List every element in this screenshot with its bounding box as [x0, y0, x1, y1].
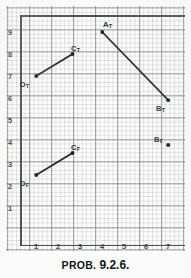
y-axis-tick-1: 1 [2, 205, 12, 212]
plot-frame-right-edge [185, 15, 186, 246]
x-axis-tick-1: 1 [31, 243, 41, 250]
y-axis-tick-6: 6 [2, 95, 12, 102]
y-axis-tick-3: 3 [2, 161, 12, 168]
point-label-ct-subscript: T [77, 47, 80, 53]
point-label-ct: CT [71, 45, 80, 53]
point-label-bt-subscript: T [162, 107, 165, 113]
y-axis-tick-9: 9 [2, 29, 12, 36]
point-label-cf-subscript: F [77, 146, 80, 152]
point-label-dt-letter: D [20, 80, 25, 89]
graph-paper-sheet [6, 6, 185, 251]
x-axis-tick-4: 4 [97, 243, 107, 250]
point-label-bf: BF [154, 136, 163, 144]
x-axis-tick-7: 7 [163, 243, 173, 250]
point-label-bf-letter: B [154, 135, 159, 144]
point-label-at: AT [103, 21, 112, 29]
point-label-df-letter: D [20, 179, 25, 188]
point-label-cf: CF [71, 144, 80, 152]
caption-number: 9.2.6. [99, 258, 129, 272]
point-label-at-letter: A [103, 20, 108, 29]
caption-label: PROB. [62, 259, 97, 271]
y-axis-tick-2: 2 [2, 183, 12, 190]
point-label-ct-letter: C [71, 44, 76, 53]
point-label-bf-subscript: F [160, 138, 163, 144]
plot-frame [20, 15, 185, 246]
point-label-df: DF [20, 180, 29, 188]
x-axis-tick-2: 2 [53, 243, 63, 250]
figure-caption: PROB. 9.2.6. [0, 258, 191, 272]
figure-prob-9-2-6: 9 8 7 6 5 4 3 2 1 1 2 3 4 5 6 7 AT BT CT… [0, 0, 191, 278]
point-label-df-subscript: F [26, 182, 29, 188]
point-label-at-subscript: T [109, 23, 112, 29]
x-axis-tick-6: 6 [141, 243, 151, 250]
point-label-cf-letter: C [71, 143, 76, 152]
point-label-dt: DT [20, 81, 29, 89]
y-axis-tick-8: 8 [2, 51, 12, 58]
y-axis-tick-5: 5 [2, 117, 12, 124]
x-axis-tick-5: 5 [119, 243, 129, 250]
x-axis-tick-3: 3 [75, 243, 85, 250]
point-label-dt-subscript: T [26, 83, 29, 89]
point-label-bt: BT [156, 105, 165, 113]
y-axis-tick-4: 4 [2, 139, 12, 146]
y-axis-tick-7: 7 [2, 73, 12, 80]
point-label-bt-letter: B [156, 104, 161, 113]
